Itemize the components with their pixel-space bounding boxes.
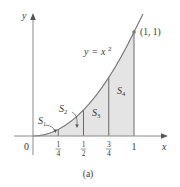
tick-one: 1 (132, 141, 137, 152)
region-sub: 3 (97, 112, 100, 119)
tick-three-quarter: 3 4 (106, 140, 112, 158)
x-axis-label: x (161, 141, 167, 152)
figure-caption: (a) (83, 169, 94, 180)
region-sub: 2 (64, 108, 67, 115)
tick-den: 2 (82, 149, 86, 158)
area-diagram: y x 0 1 4 1 2 3 4 1 y = x 2 (1, 1) S1 S2… (0, 0, 180, 187)
point-label: (1, 1) (140, 27, 161, 38)
region-label-s1: S1 (38, 115, 46, 127)
tick-den: 4 (56, 149, 60, 158)
eq-equals: = (92, 46, 98, 57)
tick-quarter: 1 4 (56, 140, 62, 158)
origin-label: 0 (24, 141, 29, 152)
tick-num: 1 (82, 140, 86, 149)
eq-x: x (100, 46, 106, 57)
tick-half: 1 2 (81, 140, 87, 158)
region-label-s2: S2 (59, 103, 67, 115)
tick-den: 4 (107, 149, 111, 158)
tick-num: 3 (107, 140, 111, 149)
y-axis-label: y (21, 10, 27, 21)
tick-num: 1 (56, 140, 60, 149)
eq-exp: 2 (108, 45, 112, 53)
y-axis-arrow-icon (30, 13, 36, 20)
point-one-one (132, 30, 136, 34)
eq-y: y (83, 46, 89, 57)
region-sub: 1 (43, 120, 46, 127)
x-axis-arrow-icon (161, 133, 168, 139)
curve-equation-label: y = x 2 (83, 45, 112, 57)
